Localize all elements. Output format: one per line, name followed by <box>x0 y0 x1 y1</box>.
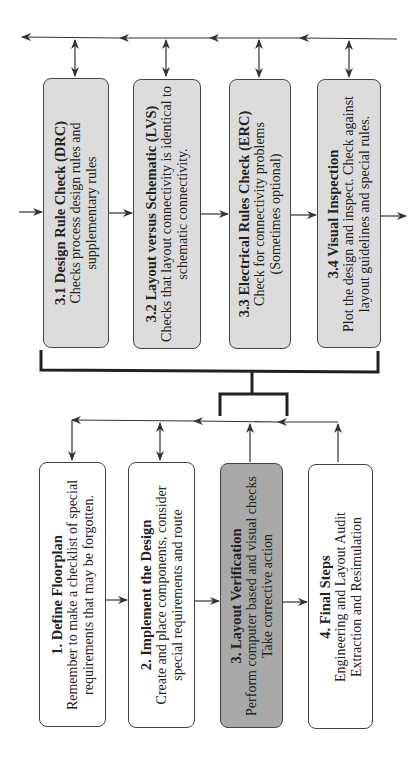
step-3-3-title: 3.3 Electrical Rules Check (ERC) <box>236 83 252 345</box>
step-3-4-desc-line1: Plot the design and inspect. Check again… <box>341 83 357 345</box>
step-4-desc-line2: Extraction and Resimulation <box>349 468 365 726</box>
step-2-title: 2. Implement the Design <box>138 466 154 724</box>
step-1-desc-line1: Remember to make a checklist of special <box>65 466 81 724</box>
step-4-title: 4. Final Steps <box>317 468 333 726</box>
step-3-4-title: 3.4 Visual Inspection <box>325 83 341 345</box>
top-feedback-line <box>22 37 397 77</box>
lower-feedback-line <box>72 420 338 462</box>
step-3-2-lvs-box: 3.2 Layout versus Schematic (LVS) Checks… <box>133 79 201 349</box>
step-3-1-desc-line1: Checks process design rules and <box>68 82 84 344</box>
step-3-2-desc-line1: Checks that layout connectivity is ident… <box>159 83 175 345</box>
step-3-3-desc-line2: (Sometimes optional) <box>268 83 284 345</box>
step-3-4-visual-box: 3.4 Visual Inspection Plot the design an… <box>317 79 381 348</box>
step-4-desc-line1: Engineering and Layout Audit <box>333 468 349 726</box>
step-4-final-box: 4. Final Steps Engineering and Layout Au… <box>308 464 373 729</box>
bracket <box>41 350 378 416</box>
step-2-desc-line1: Create and place components, consider <box>154 466 170 724</box>
step-3-3-desc-line1: Check for connectivity problems <box>252 83 268 345</box>
step-1-floorplan-box: 1. Define Floorplan Remember to make a c… <box>39 462 106 727</box>
step-1-desc-line2: requirements that may be forgotten. <box>81 466 97 724</box>
step-3-1-drc-box: 3.1 Design Rule Check (DRC) Checks proce… <box>43 78 109 348</box>
step-3-title: 3. Layout Verification <box>228 467 244 725</box>
flow-diagram: 3.1 Design Rule Check (DRC) Checks proce… <box>0 0 416 783</box>
step-3-2-desc-line2: schematic connectivity. <box>175 83 191 345</box>
step-3-layout-verification-box: 3. Layout Verification Perform computer … <box>220 463 283 728</box>
step-3-3-erc-box: 3.3 Electrical Rules Check (ERC) Check f… <box>229 79 291 349</box>
step-3-2-title: 3.2 Layout versus Schematic (LVS) <box>143 83 159 345</box>
step-3-desc-line2: Take corrective action <box>260 467 276 725</box>
step-2-desc-line2: special requirements and route <box>170 466 186 724</box>
step-2-implement-box: 2. Implement the Design Create and place… <box>128 462 195 728</box>
step-3-1-desc-line2: supplementary rules <box>84 82 100 344</box>
step-3-4-desc-line2: layout guidelines and special rules. <box>357 83 373 345</box>
step-3-1-title: 3.1 Design Rule Check (DRC) <box>52 82 68 344</box>
step-1-title: 1. Define Floorplan <box>49 466 65 724</box>
step-3-desc-line1: Perform computer based and visual checks <box>244 467 260 725</box>
